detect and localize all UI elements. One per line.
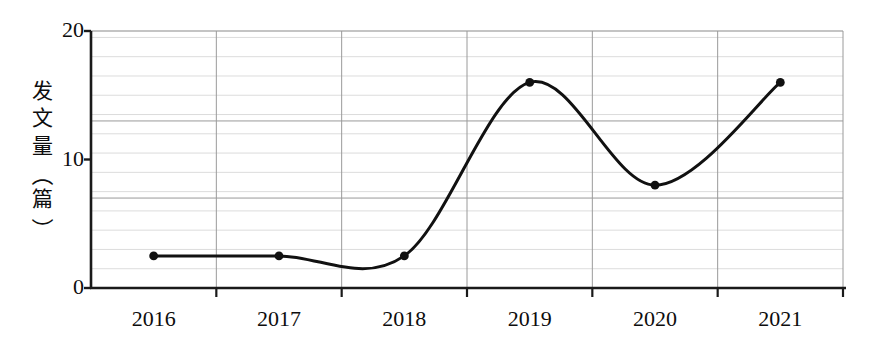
data-point-2018 bbox=[400, 251, 409, 260]
data-point-2019 bbox=[525, 78, 534, 87]
data-point-2020 bbox=[651, 181, 660, 190]
data-point-2021 bbox=[776, 78, 785, 87]
line-chart: 发 文 量 （ 篇 ） 01020 2016201720182019202020… bbox=[0, 0, 871, 356]
data-point-2017 bbox=[275, 251, 284, 260]
plot-area bbox=[0, 0, 871, 356]
data-point-2016 bbox=[149, 251, 158, 260]
